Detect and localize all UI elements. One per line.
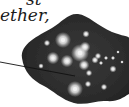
star [78,51,83,56]
star [94,59,96,61]
star [83,64,86,67]
star [65,59,68,62]
star [112,68,114,70]
star [100,62,101,63]
star [103,86,105,88]
star [73,87,77,91]
star [97,55,99,57]
star [88,72,90,74]
star [118,52,119,53]
star-cluster-illustration [0,0,129,107]
star [40,65,41,66]
star [46,42,48,44]
star [112,57,113,58]
star [85,33,87,35]
star [51,56,54,59]
star [122,62,123,63]
star [61,38,65,42]
star [87,83,89,85]
star [105,57,106,58]
star [84,46,87,49]
